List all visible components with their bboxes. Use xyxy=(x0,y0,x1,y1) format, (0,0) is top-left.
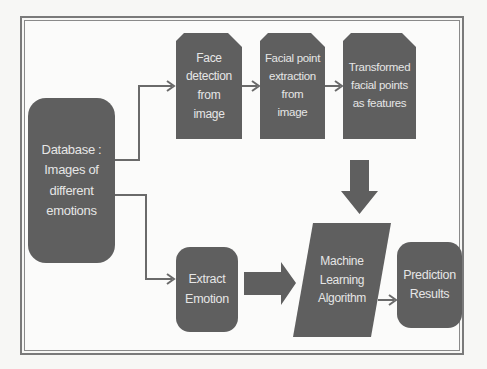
node-database: Database : Images of different emotions xyxy=(28,98,115,263)
node-face-detection: Face detection from image xyxy=(176,33,242,139)
node-prediction-results-label: Prediction Results xyxy=(403,266,456,305)
node-prediction-results: Prediction Results xyxy=(397,242,462,328)
node-transformed-points-label: Transformed facial points as features xyxy=(349,59,410,112)
node-facial-point-extraction-label: Facial point extraction from image xyxy=(265,50,320,121)
node-facial-point-extraction: Facial point extraction from image xyxy=(260,33,325,139)
node-transformed-points: Transformed facial points as features xyxy=(343,33,416,139)
node-database-label: Database : Images of different emotions xyxy=(42,140,102,221)
node-extract-emotion-label: Extract Emotion xyxy=(185,270,229,309)
node-extract-emotion: Extract Emotion xyxy=(176,247,238,332)
node-face-detection-label: Face detection from image xyxy=(186,49,232,123)
node-ml-algorithm-label: Machine Learning Algorithm xyxy=(318,252,366,308)
